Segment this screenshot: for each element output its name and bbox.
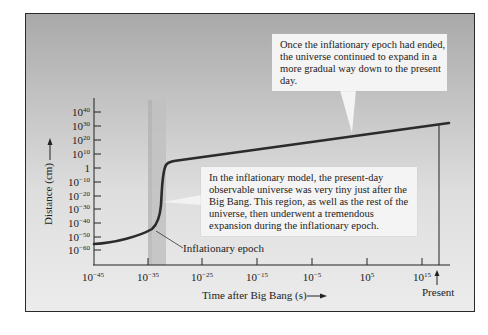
svg-text:10−10: 10−10: [68, 176, 90, 188]
present-arrow-icon: [435, 270, 440, 285]
svg-text:10−25: 10−25: [191, 271, 213, 283]
svg-text:10−40: 10−40: [68, 217, 90, 229]
y-tick-labels: 1040 1030 1020 1010 1 10−10 10−20 10−30 …: [68, 106, 90, 256]
svg-text:10−15: 10−15: [246, 271, 268, 283]
svg-text:1010: 1010: [72, 148, 91, 160]
top-callout-pointer: [340, 90, 356, 133]
svg-text:10−50: 10−50: [68, 231, 90, 243]
svg-text:10−5: 10−5: [303, 271, 322, 283]
y-axis-arrow-icon: [48, 138, 53, 160]
y-axis-label: Distance (cm): [42, 163, 55, 225]
svg-text:1030: 1030: [72, 120, 91, 132]
x-axis-arrow-icon: [307, 294, 327, 299]
svg-text:10−20: 10−20: [68, 190, 90, 202]
inflationary-epoch-label: Inflationary epoch: [183, 242, 264, 254]
x-axis-label: Time after Big Bang (s): [202, 289, 307, 302]
svg-text:1: 1: [85, 162, 91, 174]
svg-text:10−60: 10−60: [68, 244, 90, 256]
svg-text:1040: 1040: [72, 106, 91, 118]
present-label: Present: [422, 286, 454, 298]
svg-text:1015: 1015: [413, 271, 432, 283]
svg-text:10−30: 10−30: [68, 203, 90, 215]
y-tick-marks: [94, 112, 101, 250]
svg-text:1020: 1020: [72, 134, 91, 146]
x-tick-labels: 10−45 10−35 10−25 10−15 10−5 105 1015: [82, 271, 431, 283]
callout-inflationary-model: In the inflationary model, the present-d…: [201, 167, 417, 236]
svg-text:105: 105: [360, 271, 375, 283]
svg-text:10−45: 10−45: [82, 271, 104, 283]
callout-post-inflation: Once the inflationary epoch had ended, t…: [272, 34, 447, 91]
svg-text:10−35: 10−35: [137, 271, 159, 283]
callout-post-inflation-text: Once the inflationary epoch had ended, t…: [280, 39, 447, 87]
x-tick-marks: [148, 258, 422, 265]
middle-callout-pointer: [163, 195, 201, 205]
callout-inflationary-model-text: In the inflationary model, the present-d…: [209, 172, 417, 232]
